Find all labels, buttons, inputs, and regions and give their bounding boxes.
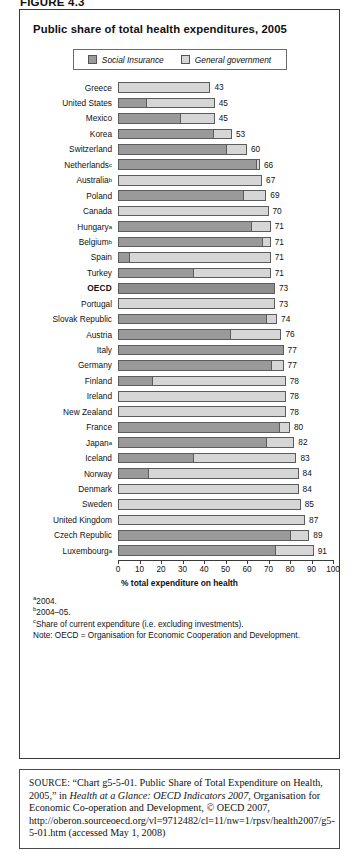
stacked-bar [118,190,266,201]
stacked-bar [118,237,271,248]
bar-category-label: Italy [20,342,112,357]
stacked-bar [118,360,284,371]
x-axis-tick-label: 30 [171,565,195,574]
bar-row: Portugal73 [20,296,339,311]
bar-row: Czech Republic89 [20,528,339,543]
bar-category-label: Spain [20,250,112,265]
stacked-bar [118,221,271,232]
x-axis-tick [312,560,313,564]
x-axis-tick [333,560,334,564]
footnote-b: b2004–05. [33,607,329,618]
bar-value-label: 60 [251,144,260,155]
bar-value-label: 84 [303,468,312,479]
stacked-bar [118,314,277,325]
bar-row: Norway84 [20,466,339,481]
x-axis-tick [226,560,227,564]
bar-segment-social-insurance [119,160,257,169]
bar-segment-general-government [194,269,269,278]
x-axis-tick-label: 50 [214,565,238,574]
bar-segment-social-insurance [119,99,147,108]
stacked-bar [118,391,286,402]
bar-value-label: 71 [275,252,284,263]
stacked-bar [118,329,281,340]
source-label: SOURCE: [29,778,70,788]
bar-segment-general-government [119,392,285,401]
bar-segment-general-government [119,299,274,308]
bar-category-label: Belgiumb [20,234,112,249]
x-axis-tick [118,560,119,564]
legend-item-general-government: General government [181,55,271,65]
bar-segment-social-insurance [119,377,153,386]
bar-row: Australiab67 [20,173,339,188]
bar-segment-general-government [252,222,269,231]
stacked-bar [118,499,301,510]
legend-label-social-insurance: Social Insurance [102,55,164,65]
bar-segment-social-insurance [119,546,276,555]
stacked-bar [118,345,284,356]
bar-value-label: 89 [313,530,322,541]
bar-segment-general-government [194,454,295,463]
bar-row: Poland69 [20,188,339,203]
x-axis-tick-label: 70 [257,565,281,574]
x-axis-tick [269,560,270,564]
bar-value-label: 66 [264,160,273,171]
bar-value-label: 71 [275,268,284,279]
bar-segment-social-insurance [119,330,231,339]
bar-row: Greece43 [20,80,339,95]
bar-category-label: Sweden [20,497,112,512]
figure-page: FIGURE 4.3 Public share of total health … [0,0,359,857]
bar-segment-general-government [119,407,285,416]
bar-segment-general-government [272,361,283,370]
bar-segment-general-government [257,160,259,169]
bar-segment-general-government [181,114,213,123]
bar-row: United States45 [20,95,339,110]
bar-segment-general-government [214,130,231,139]
bar-row: Mexico45 [20,111,339,126]
bar-segment-general-government [119,207,268,216]
bar-category-label: New Zealand [20,404,112,419]
bar-row: Korea53 [20,126,339,141]
bar-segment-general-government [227,145,247,154]
stacked-bar [118,283,275,294]
bar-row: Iceland83 [20,451,339,466]
bar-category-label: Germany [20,358,112,373]
footnote-note: Note: OECD = Organisation for Economic C… [33,630,329,641]
stacked-bar [118,515,305,526]
bar-segment-social-insurance [119,222,252,231]
bar-row: Canada70 [20,204,339,219]
bar-segment-general-government [280,423,289,432]
chart-title: Public share of total health expenditure… [33,23,339,35]
x-axis-tick-label: 100 [321,565,345,574]
stacked-bar [118,453,296,464]
stacked-bar [118,252,271,263]
bar-category-label: Luxembourga [20,543,112,558]
footnote-c: cShare of current expenditure (i.e. excl… [33,619,329,630]
bar-segment-social-insurance [119,253,130,262]
bar-category-label: Portugal [20,296,112,311]
bar-value-label: 74 [281,314,290,325]
x-axis-tick [183,560,184,564]
bar-value-label: 77 [288,345,297,356]
bar-segment-general-government [276,546,313,555]
bar-segment-general-government [119,176,261,185]
bar-value-label: 78 [290,407,299,418]
figure-label: FIGURE 4.3 [20,0,85,8]
x-axis-tick-label: 80 [278,565,302,574]
bar-value-label: 78 [290,376,299,387]
bar-segment-social-insurance [119,469,149,478]
bar-segment-social-insurance [119,438,267,447]
bar-segment-social-insurance [119,315,267,324]
bar-row: OECD73 [20,281,339,296]
footnote-a: a2004. [33,596,329,607]
x-axis-tick [247,560,248,564]
bar-value-label: 76 [285,329,294,340]
x-axis-tick-label: 20 [149,565,173,574]
bar-category-label: Mexico [20,111,112,126]
figure-box: Public share of total health expenditure… [19,9,340,759]
bar-segment-social-insurance [119,454,194,463]
x-axis-tick-label: 10 [128,565,152,574]
source-box: SOURCE: “Chart g5-5-01. Public Share of … [19,769,340,849]
bar-value-label: 53 [236,129,245,140]
bar-category-label: France [20,420,112,435]
bar-segment-general-government [119,500,300,509]
